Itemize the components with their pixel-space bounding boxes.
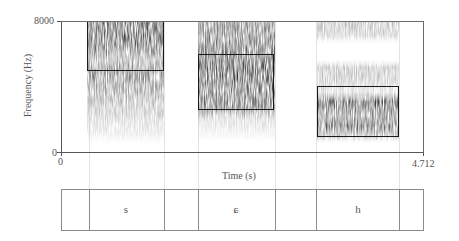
tier-boundary <box>316 189 317 231</box>
x-tick-max: 4.712 <box>412 159 435 169</box>
plot-frame <box>61 21 424 153</box>
tier-boundary <box>89 189 90 231</box>
tier-boundary <box>275 189 276 231</box>
tier-boundary <box>198 189 199 231</box>
x-axis-title: Time (s) <box>222 170 256 181</box>
y-axis-title: Frequency (Hz) <box>22 51 33 121</box>
x-tick-min: 0 <box>58 157 63 167</box>
tier-boundary <box>164 189 165 231</box>
y-tick-min: 0 <box>52 148 57 158</box>
tier-label-h: h <box>348 203 368 215</box>
y-tick-max: 8000 <box>34 16 54 26</box>
x-tick-mark-min <box>61 153 62 156</box>
tier-label-c-curl: ɕ <box>226 203 246 215</box>
tier-label-s: s <box>116 203 136 215</box>
x-tick-mark-max <box>423 153 424 156</box>
tier-boundary <box>399 189 400 231</box>
